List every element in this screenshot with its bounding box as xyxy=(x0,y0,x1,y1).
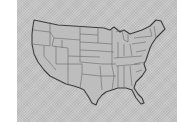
us-map-icon xyxy=(0,0,177,126)
image-description: Grayscale map of the contiguous United S… xyxy=(0,0,1,1)
us-outline xyxy=(32,20,165,105)
